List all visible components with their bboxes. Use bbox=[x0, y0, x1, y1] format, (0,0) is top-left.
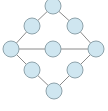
graph-diagram bbox=[0, 0, 108, 111]
node-lower-right bbox=[67, 62, 83, 78]
node-mid-right bbox=[88, 41, 104, 57]
node-upper-right bbox=[67, 18, 83, 34]
node-lower-left bbox=[24, 62, 40, 78]
node-bottom bbox=[46, 83, 62, 99]
node-top bbox=[45, 0, 61, 14]
nodes-group bbox=[3, 0, 104, 99]
node-center bbox=[45, 41, 61, 57]
node-mid-left bbox=[3, 41, 19, 57]
node-upper-left bbox=[24, 18, 40, 34]
